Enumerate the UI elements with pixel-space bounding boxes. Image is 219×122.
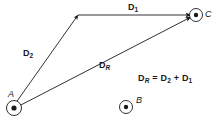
point-marker-a bbox=[7, 101, 22, 116]
vector-label-d2-base: D bbox=[23, 48, 30, 58]
vector-label-dr-base: D bbox=[99, 60, 106, 70]
vector-label-d1-sub: 1 bbox=[135, 6, 139, 13]
vector-line-d2 bbox=[15, 15, 78, 104]
equation-term-d1-base: D bbox=[182, 73, 189, 83]
point-label-b: B bbox=[136, 96, 142, 105]
equation-dr-equals-d2-plus-d1: DR = D2 + D1 bbox=[138, 74, 192, 83]
vector-label-d2: D2 bbox=[23, 49, 33, 58]
vector-label-d1: D1 bbox=[128, 3, 138, 12]
equation-term-dr-base: D bbox=[138, 73, 145, 83]
point-label-c-text: C bbox=[205, 9, 212, 19]
point-label-a: A bbox=[8, 90, 14, 99]
equation-operator-plus: + bbox=[174, 73, 179, 83]
point-marker-b bbox=[120, 101, 133, 114]
vector-label-dr: DR bbox=[99, 61, 110, 70]
point-label-c: C bbox=[205, 10, 212, 19]
equation-term-d1-sub: 1 bbox=[189, 77, 193, 84]
vector-label-dr-sub: R bbox=[106, 64, 111, 71]
equation-term-dr-sub: R bbox=[145, 77, 150, 84]
vector-label-d2-sub: 2 bbox=[30, 52, 34, 59]
point-label-a-text: A bbox=[8, 89, 14, 99]
vector-diagram-figure: D1 D2 DR A B C DR = D2 + D1 bbox=[0, 0, 219, 122]
point-label-b-text: B bbox=[136, 95, 142, 105]
point-marker-c bbox=[190, 9, 203, 22]
vector-label-d1-base: D bbox=[128, 2, 135, 12]
equation-operator-equals: = bbox=[152, 73, 157, 83]
equation-term-d2-sub: 2 bbox=[167, 77, 171, 84]
